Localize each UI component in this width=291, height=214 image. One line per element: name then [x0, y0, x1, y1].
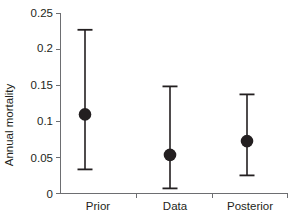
- y-tick-label-0.05: 0.05: [31, 152, 53, 164]
- mean-marker-prior: [79, 108, 92, 121]
- y-tick-label-0.15: 0.15: [31, 79, 53, 91]
- mean-marker-posterior: [241, 135, 254, 148]
- x-category-label-data: Data: [163, 200, 188, 212]
- x-category-label-prior: Prior: [86, 200, 110, 212]
- x-category-label-posterior: Posterior: [227, 200, 273, 212]
- chart-svg: Annual mortality 0.25 0.2 0.15 0.1 0.05 …: [0, 0, 291, 214]
- mean-marker-data: [164, 149, 177, 162]
- y-tick-label-0.25: 0.25: [31, 7, 53, 19]
- datapoint-group-data: [163, 86, 178, 189]
- y-tick-label-0.1: 0.1: [37, 115, 53, 127]
- y-tick-label-0.2: 0.2: [37, 42, 53, 54]
- chart-container: Annual mortality 0.25 0.2 0.15 0.1 0.05 …: [0, 0, 291, 214]
- y-axis-title: Annual mortality: [3, 84, 15, 167]
- y-tick-label-0: 0: [47, 188, 53, 200]
- datapoint-group-prior: [78, 30, 93, 170]
- datapoint-group-posterior: [240, 94, 255, 176]
